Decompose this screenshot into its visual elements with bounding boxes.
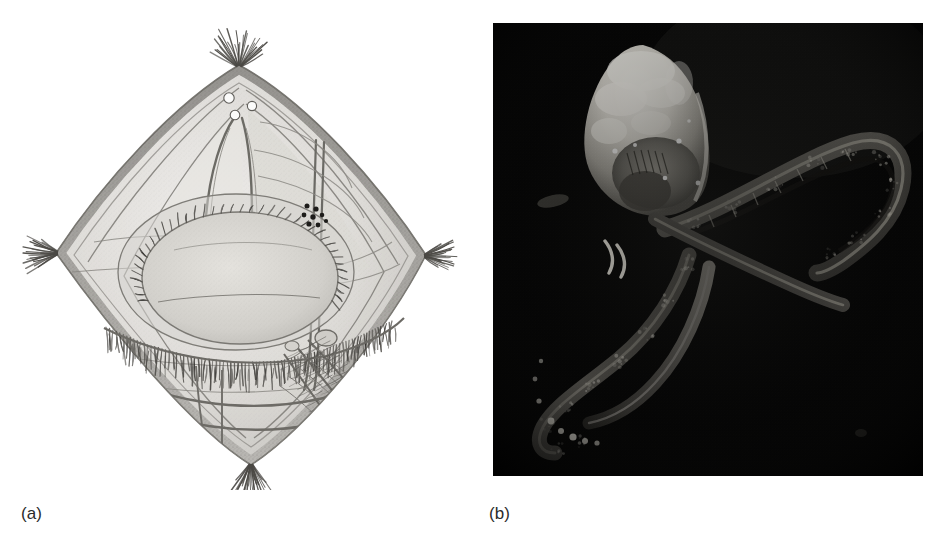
panel-a-drawing — [0, 0, 470, 551]
darkfield-photomicrograph — [493, 23, 923, 476]
panel-a-label: (a) — [21, 505, 42, 522]
panel-b-photomicrograph — [470, 0, 940, 551]
figure-root: (a) — [0, 0, 940, 551]
caudal-seta-tuft — [231, 464, 272, 490]
right-lateral-seta-tuft — [425, 240, 457, 269]
vignette — [493, 23, 923, 476]
specimen-line-drawing — [8, 10, 458, 490]
lower-right-organ-node — [315, 330, 337, 346]
central-ovoid-organ — [118, 194, 354, 350]
left-lateral-seta-tuft — [23, 236, 58, 274]
apical-seta-tuft — [210, 29, 267, 67]
panel-b-label: (b) — [489, 505, 510, 522]
photo-frame — [493, 23, 923, 476]
